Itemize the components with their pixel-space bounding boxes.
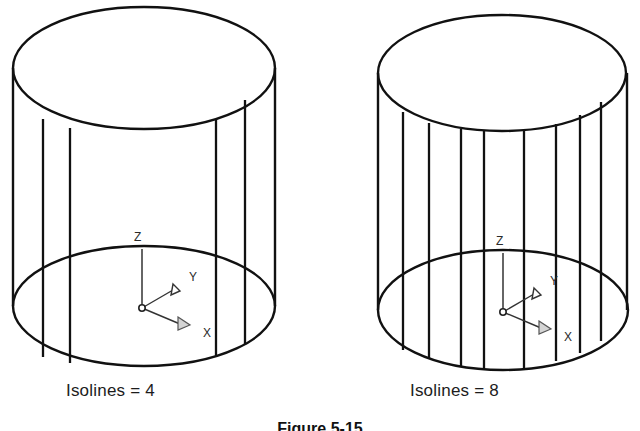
ucs-y-axis-left [142,290,173,308]
isolines-label-left: Isolines = 4 [66,381,155,401]
ucs-y-arrowhead-left [171,284,180,295]
ucs-x-axis-left [142,308,180,324]
cylinder-right: Z Y X [378,15,628,370]
isolines-label-right: Isolines = 8 [410,381,499,401]
ucs-y-axis-right [503,294,534,312]
ucs-x-arrowhead-left [178,317,190,330]
ucs-x-arrowhead-right [539,321,551,334]
ucs-x-label-right: X [564,330,572,344]
ucs-z-label-right: Z [496,234,503,248]
ucs-origin-right [500,309,506,315]
ucs-origin-left [139,305,145,311]
figure-page: Z Y X [0,0,640,431]
cylinder-left: Z Y X [13,7,275,366]
top-ellipse-right [378,15,626,131]
ucs-x-label-left: X [203,326,211,340]
ucs-y-label-left: Y [189,270,197,284]
figure-caption: Figure 5-15 [0,419,640,431]
cylinder-isolines-diagram: Z Y X [0,0,640,431]
ucs-y-label-right: Y [550,274,558,288]
ucs-y-arrowhead-right [532,288,541,299]
top-ellipse-left [13,7,275,129]
ucs-x-axis-right [503,312,541,328]
ucs-z-label-left: Z [134,230,141,244]
